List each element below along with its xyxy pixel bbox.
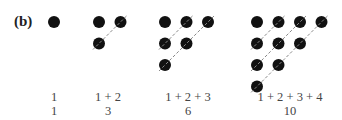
dot xyxy=(159,16,171,28)
dot xyxy=(93,16,105,28)
dashed-diagonal xyxy=(251,16,328,93)
group-4-total: 10 xyxy=(240,104,340,119)
dot xyxy=(251,16,263,28)
group-4-sum: 1 + 2 + 3 + 4 xyxy=(240,90,340,105)
group-3-total: 6 xyxy=(138,104,238,119)
dot-groups xyxy=(48,16,328,93)
dot xyxy=(48,16,60,28)
group-3-sum: 1 + 2 + 3 xyxy=(138,90,238,105)
